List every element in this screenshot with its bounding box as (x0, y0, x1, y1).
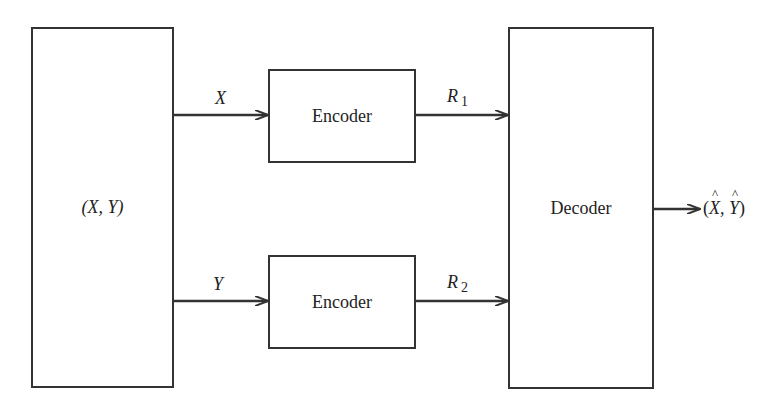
rate-r2-label: R2 (447, 272, 468, 293)
encoder-1-block: Encoder (268, 69, 416, 163)
y-hat: Y (729, 198, 739, 219)
x-hat: X (709, 198, 720, 219)
source-block: (X, Y) (31, 27, 174, 388)
source-label: (X, Y) (82, 197, 124, 218)
decoder-label: Decoder (551, 198, 612, 219)
encoder-2-block: Encoder (268, 255, 416, 349)
decoder-block: Decoder (508, 27, 654, 389)
input-y-label: Y (213, 274, 223, 295)
output-estimate-label: (X, Y) (703, 198, 745, 219)
encoder-1-label: Encoder (312, 106, 372, 127)
input-x-label: X (215, 88, 226, 109)
encoder-2-label: Encoder (312, 292, 372, 313)
rate-r1-label: R1 (447, 86, 468, 107)
